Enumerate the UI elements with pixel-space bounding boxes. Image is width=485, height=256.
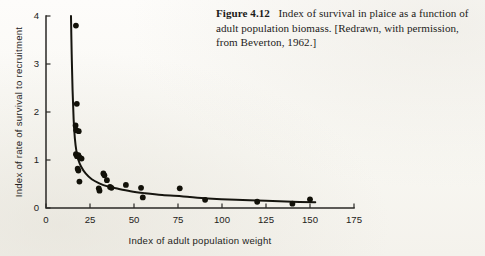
data-point <box>202 197 208 203</box>
data-point <box>254 199 260 205</box>
data-point <box>73 23 79 29</box>
data-point <box>138 185 144 191</box>
x-tick-label: 25 <box>85 214 96 225</box>
data-point <box>76 128 82 134</box>
data-point <box>79 156 85 162</box>
data-point <box>104 177 110 183</box>
y-axis-title: Index of rate of survival to recruitment <box>13 27 24 198</box>
data-point <box>97 188 103 194</box>
y-tick-label: 2 <box>34 106 39 117</box>
fitted-curve <box>71 16 315 202</box>
data-points <box>73 23 313 207</box>
x-tick-label: 0 <box>43 214 48 225</box>
x-tick-label: 75 <box>173 214 184 225</box>
data-point <box>290 201 296 207</box>
x-tick-label: 50 <box>129 214 140 225</box>
data-point <box>109 185 115 191</box>
data-point <box>307 196 313 202</box>
x-tick-label: 175 <box>346 214 362 225</box>
data-point <box>74 101 80 107</box>
x-tick-label: 125 <box>258 214 274 225</box>
y-tick-label: 4 <box>34 10 40 21</box>
data-point <box>75 168 81 174</box>
scatter-plot: 025507510012515017501234 Index of adult … <box>0 0 485 256</box>
data-point <box>140 195 146 201</box>
data-point <box>177 185 183 191</box>
y-tick-label: 0 <box>34 202 39 213</box>
axis-tick-labels: 025507510012515017501234 <box>34 10 362 225</box>
y-tick-label: 3 <box>34 58 39 69</box>
data-point <box>123 182 129 188</box>
x-tick-label: 150 <box>302 214 318 225</box>
x-tick-label: 100 <box>214 214 230 225</box>
data-point <box>77 179 83 185</box>
y-tick-label: 1 <box>34 154 39 165</box>
x-axis-title: Index of adult population weight <box>129 235 272 246</box>
figure-plot-area: 025507510012515017501234 Index of adult … <box>0 0 485 256</box>
